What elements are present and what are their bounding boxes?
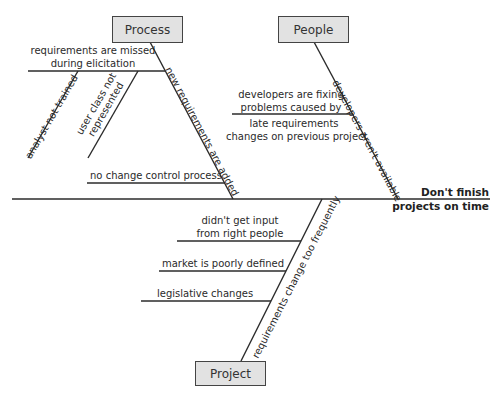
people-label: People xyxy=(294,23,334,37)
no-change-control-label: no change control process xyxy=(90,169,222,182)
fixing-cause-label-bottom: late requirements changes on previous pr… xyxy=(226,117,362,143)
effect-line2: projects on time xyxy=(392,199,489,213)
process-label: Process xyxy=(125,23,171,37)
effect-label: Don't finish projects on time xyxy=(392,185,489,213)
missed-line2: during elicitation xyxy=(28,57,158,70)
input-cause-label: didn't get input from right people xyxy=(190,214,290,240)
missed-line1: requirements are missed xyxy=(28,44,158,57)
missed-cause-label: requirements are missed during elicitati… xyxy=(28,44,158,70)
process-category-box: Process xyxy=(112,16,183,43)
project-category-box: Project xyxy=(195,361,266,386)
effect-line1: Don't finish xyxy=(392,185,489,199)
project-label: Project xyxy=(210,367,251,381)
legislative-cause-label: legislative changes xyxy=(157,287,253,300)
market-cause-label: market is poorly defined xyxy=(162,257,284,270)
fixing-cause-label-top: developers are fixing problems caused by xyxy=(232,88,350,114)
people-category-box: People xyxy=(278,16,349,43)
